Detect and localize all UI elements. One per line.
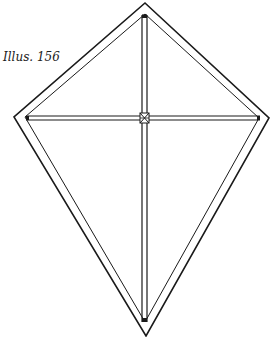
kite-diagram — [0, 0, 272, 337]
cross-joint-binding — [140, 113, 149, 123]
vertical-spar — [142, 15, 147, 322]
